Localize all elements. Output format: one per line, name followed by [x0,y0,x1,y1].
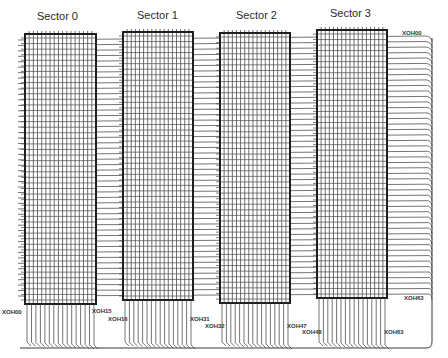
label-xoh48: XOH48 [302,329,322,335]
sector-titles: Sector 0 Sector 1 Sector 2 Sector 3 [37,7,371,22]
label-right-bottom: XOH63 [404,295,424,301]
label-xoh16: XOH16 [108,316,128,322]
sector-3-title: Sector 3 [330,7,371,19]
label-top-right: XOH00 [402,30,422,36]
sector-0-title: Sector 0 [37,10,78,22]
label-xoh63: XOH63 [384,329,404,335]
sector-3-array [313,27,387,298]
sector-wiring-diagram: Sector 0 Sector 1 Sector 2 Sector 3 XOH0… [0,0,448,358]
label-xoh00-bottom: XOH00 [2,309,22,315]
label-xoh32: XOH32 [205,323,225,329]
sector-2-title: Sector 2 [236,9,277,21]
sector-2-array [216,30,290,303]
sector-1-title: Sector 1 [137,9,178,21]
sector-0-array [21,31,96,304]
sector-1-array [119,29,193,300]
label-xoh15: XOH15 [92,308,112,314]
label-xoh31: XOH31 [190,316,210,322]
